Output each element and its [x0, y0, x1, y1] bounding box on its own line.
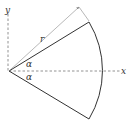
- angle-label-upper: α: [26, 59, 32, 69]
- angle-label-lower: α: [26, 72, 32, 82]
- sector-diagram: y x r α α: [0, 0, 133, 127]
- y-axis-label: y: [4, 5, 11, 15]
- radius-label: r: [40, 34, 45, 44]
- radius-extension-line: [79, 7, 89, 21]
- x-axis-label: x: [121, 66, 126, 76]
- sector-outline: [9, 22, 102, 119]
